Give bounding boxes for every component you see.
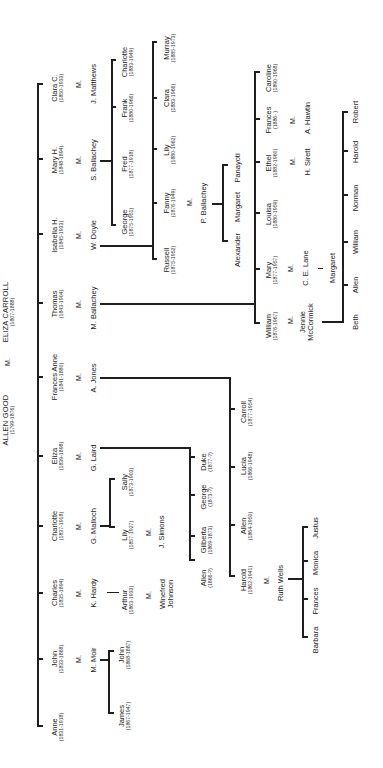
spouse-mmoir: M. Moir bbox=[90, 648, 98, 673]
bracket-william-children bbox=[342, 111, 344, 323]
spouse-hsirett: H. Sirett bbox=[304, 148, 312, 175]
bracket-fanny-children bbox=[222, 164, 224, 242]
marriage-label: M. bbox=[75, 655, 83, 663]
marriage-label: M. bbox=[75, 522, 83, 530]
person-louisa: Louisa(1880-1959) bbox=[265, 200, 279, 228]
marriage-label: M. bbox=[75, 231, 83, 239]
person-arthur: Arthur(1863-1933) bbox=[121, 586, 135, 614]
tick bbox=[189, 494, 195, 496]
tick bbox=[342, 150, 348, 152]
marriage-label: M. bbox=[145, 591, 153, 599]
line-ruthwells bbox=[288, 578, 303, 580]
marriage-label: M. bbox=[75, 373, 83, 381]
person-panayoti: Panayoti bbox=[234, 153, 242, 182]
person-john: John(1833-1868) bbox=[51, 645, 65, 673]
tick bbox=[254, 268, 260, 270]
person-george-b: George(1875-1951) bbox=[121, 208, 135, 236]
marriage-label: M. bbox=[289, 116, 297, 124]
marriage-label: M. bbox=[186, 198, 194, 206]
spouse-pballachey: P. Ballachey bbox=[200, 183, 208, 224]
marriage-label: M. bbox=[289, 157, 297, 165]
marriage-label: M. bbox=[75, 80, 83, 88]
root-mother: ELIZA CARROLL (1807-1888) bbox=[2, 282, 16, 343]
tick bbox=[229, 524, 235, 526]
tick bbox=[342, 194, 348, 196]
tick bbox=[189, 535, 195, 537]
person-harold-m: Harold bbox=[352, 141, 360, 163]
person-george-l: George(1873-?) bbox=[200, 484, 214, 509]
tick-charlotte bbox=[37, 525, 43, 527]
tick-john bbox=[37, 658, 43, 660]
person-caroline: Caroline(1890-1968) bbox=[265, 64, 279, 92]
bracket-charlotte-children bbox=[109, 478, 111, 527]
tick bbox=[189, 456, 195, 458]
person-frances-anne: Frances Anne(1841-1880) bbox=[51, 354, 65, 400]
person-fred: Fred(1877-1918) bbox=[121, 150, 135, 178]
marriage-label: M. bbox=[75, 300, 83, 308]
tick bbox=[302, 636, 308, 638]
root-marriage-label: M. bbox=[4, 358, 12, 366]
person-maryh: Mary H.(1848-1894) bbox=[51, 146, 65, 174]
spouse-jmatthews: J. Matthews bbox=[90, 64, 98, 104]
person-norman: Norman bbox=[352, 185, 360, 212]
person-fanny: Fanny(1876-1949) bbox=[163, 189, 177, 217]
tick-thomas bbox=[37, 302, 43, 304]
person-frank: Frank(1880-1966) bbox=[121, 94, 135, 122]
marriage-label: M. bbox=[287, 264, 295, 272]
bracket-harold-children bbox=[302, 526, 304, 637]
spouse-winefred-johnson: WinefredJohnson bbox=[159, 579, 176, 609]
tick bbox=[302, 526, 308, 528]
marriage-label: M. bbox=[287, 316, 295, 324]
tick bbox=[152, 41, 157, 43]
person-william-m: William bbox=[352, 230, 360, 254]
marriage-label: M. bbox=[75, 156, 83, 164]
tick bbox=[302, 560, 308, 562]
person-anne: Anne(1831-1918) bbox=[51, 713, 65, 741]
person-john-2: John(1868-1887) bbox=[118, 641, 132, 669]
line-glaird bbox=[100, 447, 191, 449]
person-monica: Monica bbox=[312, 551, 320, 575]
person-clarac: Clara C.(1850-1933) bbox=[51, 74, 65, 102]
spouse-glaird: G. Laird bbox=[90, 445, 98, 472]
tick bbox=[111, 106, 116, 108]
tick bbox=[254, 118, 260, 120]
tick bbox=[152, 148, 157, 150]
tick bbox=[109, 526, 115, 528]
person-margaret-l: Margaret bbox=[329, 253, 337, 283]
tick bbox=[152, 258, 157, 260]
person-charlotte: Charlotte(1837-1918) bbox=[51, 511, 65, 541]
person-allen-j: Allen(1864-1950) bbox=[240, 512, 254, 540]
spouse-gmalloch: G. Malloch bbox=[90, 508, 98, 544]
person-clara: Clara(1883-1966) bbox=[163, 84, 177, 112]
tick-anne bbox=[37, 725, 43, 727]
person-frances-b: Frances(1886- ) bbox=[265, 106, 279, 133]
person-duke: Duke(1877-?) bbox=[200, 452, 214, 472]
person-sally: Sally(1873-1903) bbox=[121, 468, 135, 496]
tick bbox=[222, 240, 228, 242]
person-carroll: Carroll(1877-1954) bbox=[240, 398, 254, 426]
tick-isabella bbox=[37, 233, 43, 235]
marriage-label: M. bbox=[75, 452, 83, 460]
tick bbox=[152, 97, 157, 99]
tick-charles bbox=[37, 592, 43, 594]
spouse-khardy: K. Hardy bbox=[90, 578, 98, 607]
person-alexander: Alexander bbox=[234, 233, 242, 267]
bracket-john-children bbox=[108, 650, 110, 714]
tick bbox=[302, 598, 308, 600]
person-allen-l: Allen(1866-?) bbox=[200, 568, 214, 588]
tick bbox=[342, 284, 348, 286]
person-isabella: Isabella H.(1845-1933) bbox=[51, 217, 65, 252]
person-william: William(1876-1967) bbox=[265, 312, 279, 340]
spouse-wdoyle: W. Doyle bbox=[90, 220, 98, 250]
line-celane bbox=[318, 268, 323, 269]
tick bbox=[222, 164, 228, 166]
person-eliza: Eliza(1839-1898) bbox=[51, 442, 65, 470]
tick-maryh bbox=[37, 158, 43, 160]
tick bbox=[254, 322, 260, 324]
tick bbox=[108, 712, 114, 714]
tick bbox=[254, 161, 260, 163]
bracket-thomas-children bbox=[254, 71, 256, 324]
tick bbox=[342, 241, 348, 243]
person-lucia: Lucia(1866-1948) bbox=[240, 452, 254, 480]
spouse-jennie-mccormick: JennieMcCormick bbox=[299, 303, 316, 341]
